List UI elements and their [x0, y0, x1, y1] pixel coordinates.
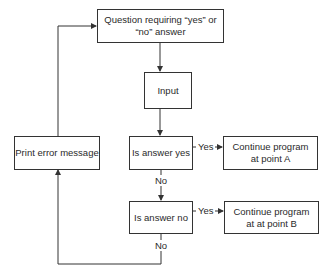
- node-is-answer-yes: Is answer yes: [129, 136, 193, 170]
- edge-label-no-1: No: [154, 175, 168, 186]
- node-is-answer-yes-label: Is answer yes: [132, 147, 190, 159]
- node-continue-a: Continue program at point A: [223, 136, 318, 170]
- node-question-label: Question requiring “yes” or “no” answer: [104, 14, 217, 38]
- node-continue-a-label: Continue program at point A: [228, 141, 313, 165]
- edge-label-no-2: No: [154, 240, 168, 251]
- arrow-print-error-to-question: [58, 26, 96, 136]
- edge-label-yes-2: Yes: [197, 205, 215, 216]
- node-is-answer-no: Is answer no: [129, 201, 193, 234]
- node-print-error: Print error message: [14, 136, 100, 170]
- node-is-answer-no-label: Is answer no: [134, 212, 188, 224]
- node-continue-b: Continue program at at point B: [224, 201, 319, 234]
- node-continue-b-label: Continue program at at point B: [229, 206, 314, 230]
- edge-label-yes-1: Yes: [197, 141, 215, 152]
- node-input: Input: [144, 72, 192, 109]
- node-input-label: Input: [157, 85, 178, 97]
- node-print-error-label: Print error message: [15, 147, 98, 159]
- node-question: Question requiring “yes” or “no” answer: [97, 9, 224, 43]
